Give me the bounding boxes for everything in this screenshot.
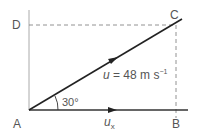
velocity-value: = 48 m s [110, 68, 160, 82]
point-label-c: C [170, 9, 179, 21]
point-label-a: A [13, 118, 21, 130]
velocity-vector-line [29, 19, 182, 110]
angle-label: 30° [62, 97, 79, 108]
point-label-b: B [172, 118, 180, 130]
vector-diagram [0, 0, 197, 140]
component-arrowhead-icon [108, 107, 117, 113]
component-subscript: x [111, 122, 115, 131]
component-label: ux [104, 116, 115, 131]
point-label-d: D [12, 19, 21, 31]
component-symbol: u [104, 115, 111, 129]
velocity-exponent: −1 [159, 68, 167, 75]
velocity-symbol: u [103, 68, 110, 82]
angle-arc [55, 96, 58, 110]
velocity-label: u = 48 m s−1 [103, 68, 167, 81]
